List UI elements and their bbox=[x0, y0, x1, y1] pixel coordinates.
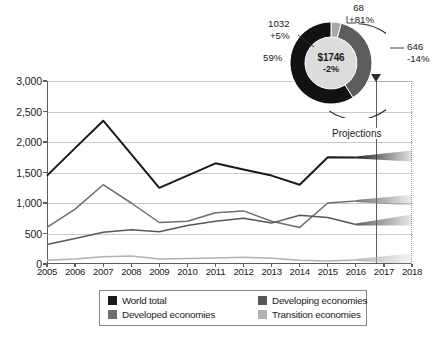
legend-item[interactable]: Developed economies bbox=[108, 309, 258, 320]
legend-item[interactable]: World total bbox=[108, 295, 258, 306]
x-axis-tick-mark bbox=[131, 264, 132, 267]
legend-item-label: Developing economies bbox=[272, 295, 367, 306]
legend-item[interactable]: Transition economies bbox=[258, 309, 376, 320]
x-axis-tick-mark bbox=[74, 264, 75, 267]
x-axis-tick-label: 2017 bbox=[369, 266, 399, 277]
x-axis-tick-mark bbox=[327, 264, 328, 267]
x-axis-tick-mark bbox=[215, 264, 216, 267]
legend-swatch-icon bbox=[258, 310, 267, 319]
x-axis-tick-mark bbox=[271, 264, 272, 267]
x-axis-tick-mark bbox=[383, 264, 384, 267]
x-axis-tick-mark bbox=[46, 264, 47, 267]
x-axis-tick-mark bbox=[299, 264, 300, 267]
donut-leader-lines bbox=[0, 0, 441, 337]
legend-item-label: Transition economies bbox=[272, 309, 361, 320]
x-axis-tick-mark bbox=[159, 264, 160, 267]
x-axis-tick-label: 2009 bbox=[144, 266, 174, 277]
chart-legend: World totalDeveloping economiesDeveloped… bbox=[99, 290, 367, 326]
x-axis-tick-mark bbox=[103, 264, 104, 267]
legend-swatch-icon bbox=[108, 296, 117, 305]
legend-item-label: Developed economies bbox=[122, 309, 215, 320]
legend-swatch-icon bbox=[258, 296, 267, 305]
x-axis-tick-label: 2010 bbox=[172, 266, 202, 277]
x-axis-tick-mark bbox=[187, 264, 188, 267]
x-axis-tick-label: 2008 bbox=[116, 266, 146, 277]
x-axis-tick-label: 2011 bbox=[200, 266, 230, 277]
x-axis-tick-label: 2012 bbox=[229, 266, 259, 277]
x-axis-tick-label: 2007 bbox=[88, 266, 118, 277]
x-axis-tick-mark bbox=[355, 264, 356, 267]
x-axis-tick-label: 2015 bbox=[313, 266, 343, 277]
legend-swatch-icon bbox=[108, 310, 117, 319]
x-axis-tick-mark bbox=[411, 264, 412, 267]
x-axis-tick-label: 2016 bbox=[341, 266, 371, 277]
legend-item[interactable]: Developing economies bbox=[258, 295, 376, 306]
x-axis-tick-mark bbox=[243, 264, 244, 267]
legend-item-label: World total bbox=[122, 295, 166, 306]
x-axis-tick-label: 2006 bbox=[60, 266, 90, 277]
x-axis-tick-label: 2013 bbox=[257, 266, 287, 277]
x-axis-tick-label: 2014 bbox=[285, 266, 315, 277]
chart-figure: 05001,0001,5002,0002,5003,000 Projection… bbox=[0, 0, 441, 337]
x-axis-tick-label: 2018 bbox=[397, 266, 427, 277]
x-axis-tick-label: 2005 bbox=[32, 266, 62, 277]
